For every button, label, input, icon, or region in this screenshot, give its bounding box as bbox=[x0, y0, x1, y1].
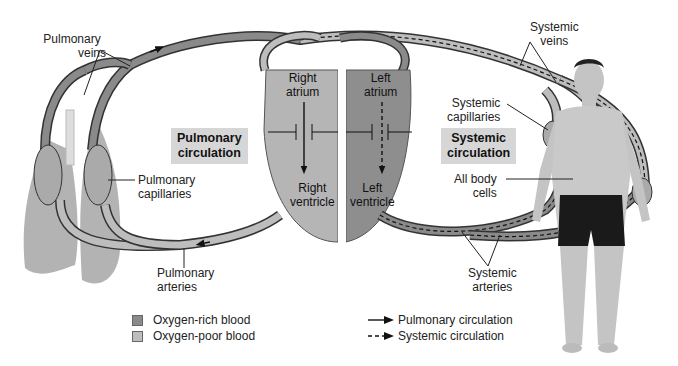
label-line: Right bbox=[286, 71, 319, 85]
label-line: veins bbox=[38, 46, 106, 60]
legend-pulmonary-circulation: Pulmonary circulation bbox=[368, 313, 513, 327]
label-line: ventricle bbox=[290, 195, 335, 209]
label-line: cells bbox=[454, 186, 497, 200]
label-line: arteries bbox=[157, 280, 214, 294]
oxygen-poor-swatch-icon bbox=[132, 331, 143, 342]
oxygen-rich-swatch-icon bbox=[132, 315, 143, 326]
box-line: circulation bbox=[177, 146, 242, 161]
label-all-body-cells: All body cells bbox=[454, 172, 497, 200]
label-line: atrium bbox=[286, 85, 319, 99]
box-line: Systemic bbox=[447, 131, 510, 146]
label-systemic-arteries: Systemic arteries bbox=[468, 266, 517, 294]
label-line: capillaries bbox=[447, 110, 500, 124]
label-line: Left bbox=[364, 71, 397, 85]
label-line: Right bbox=[290, 181, 335, 195]
legend-systemic-circulation: Systemic circulation bbox=[368, 329, 504, 343]
label-line: Left bbox=[350, 181, 395, 195]
label-line: Systemic bbox=[468, 266, 517, 280]
dashed-arrow-icon bbox=[368, 331, 394, 341]
label-systemic-veins: Systemic veins bbox=[530, 20, 579, 48]
label-pulmonary-arteries: Pulmonary arteries bbox=[157, 266, 214, 294]
legend-oxygen-rich: Oxygen-rich blood bbox=[132, 313, 250, 327]
label-line: All body bbox=[454, 172, 497, 186]
label-line: arteries bbox=[468, 280, 517, 294]
label-line: Pulmonary bbox=[157, 266, 214, 280]
label-left-atrium: Left atrium bbox=[364, 71, 397, 99]
label-line: Pulmonary bbox=[38, 32, 106, 46]
legend-label: Systemic circulation bbox=[398, 329, 504, 343]
label-pulmonary-veins: Pulmonary veins bbox=[38, 32, 106, 60]
label-line: Pulmonary bbox=[138, 173, 195, 187]
box-line: circulation bbox=[447, 146, 510, 161]
label-line: ventricle bbox=[350, 195, 395, 209]
box-line: Pulmonary bbox=[177, 131, 242, 146]
pulmonary-circulation-box: Pulmonary circulation bbox=[171, 128, 248, 164]
label-left-ventricle: Left ventricle bbox=[350, 181, 395, 209]
label-line: Systemic bbox=[447, 96, 500, 110]
label-right-atrium: Right atrium bbox=[286, 71, 319, 99]
label-line: atrium bbox=[364, 85, 397, 99]
legend-oxygen-poor: Oxygen-poor blood bbox=[132, 329, 255, 343]
label-line: veins bbox=[530, 34, 579, 48]
label-systemic-capillaries: Systemic capillaries bbox=[447, 96, 500, 124]
label-right-ventricle: Right ventricle bbox=[290, 181, 335, 209]
legend-label: Oxygen-poor blood bbox=[153, 329, 255, 343]
legend-label: Pulmonary circulation bbox=[398, 313, 513, 327]
label-line: Systemic bbox=[530, 20, 579, 34]
circulation-diagram: Pulmonary veins Pulmonary capillaries Pu… bbox=[0, 0, 678, 366]
systemic-circulation-box: Systemic circulation bbox=[441, 128, 516, 164]
legend-label: Oxygen-rich blood bbox=[153, 313, 250, 327]
label-pulmonary-capillaries: Pulmonary capillaries bbox=[138, 173, 195, 201]
solid-arrow-icon bbox=[368, 315, 394, 325]
label-line: capillaries bbox=[138, 187, 195, 201]
